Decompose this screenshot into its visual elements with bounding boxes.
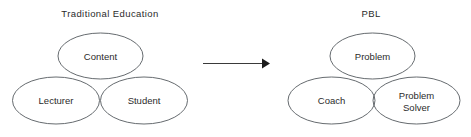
node-lecturer[interactable]: Lecturer [13, 77, 100, 124]
node-student[interactable]: Student [101, 77, 188, 124]
node-content[interactable]: Content [58, 33, 143, 79]
diagram-svg: Traditional Education Content Lecturer S… [0, 0, 471, 137]
ellipse-label-problem-solver-line1: Problem [399, 90, 434, 101]
diagram-canvas: Traditional Education Content Lecturer S… [0, 0, 471, 137]
diagram-title-pbl: PBL [361, 8, 380, 19]
node-problem-solver[interactable]: Problem Solver [373, 77, 460, 124]
ellipse-label-lecturer: Lecturer [39, 95, 74, 106]
diagram-title-traditional-education: Traditional Education [61, 8, 158, 19]
node-problem[interactable]: Problem [330, 33, 415, 79]
ellipse-label-student: Student [128, 95, 161, 106]
transition-arrow [203, 59, 270, 69]
arrow-head-icon [262, 59, 270, 69]
diagram-traditional-education: Traditional Education Content Lecturer S… [13, 8, 188, 124]
ellipse-label-problem: Problem [355, 51, 390, 62]
ellipse-label-content: Content [84, 51, 118, 62]
diagram-pbl: PBL Problem Coach Problem Solver [288, 8, 460, 124]
ellipse-label-coach: Coach [318, 95, 345, 106]
ellipse-label-problem-solver-line2: Solver [403, 102, 430, 113]
node-coach[interactable]: Coach [288, 77, 375, 124]
